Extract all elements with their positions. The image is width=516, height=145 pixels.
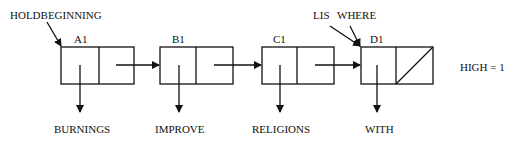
- node-label-c1: C1: [273, 33, 286, 45]
- arrow-holdbeginning: [47, 22, 61, 46]
- value-improve: IMPROVE: [155, 123, 205, 135]
- null-pointer-slash: [396, 47, 433, 84]
- value-burnings: BURNINGS: [54, 123, 110, 135]
- annotation-high: HIGH = 1: [460, 61, 505, 73]
- value-with: WITH: [365, 123, 394, 135]
- pointer-label-holdbeginning: HOLDBEGINNING: [10, 9, 102, 21]
- pointer-label-where: WHERE: [337, 9, 376, 21]
- node-label-a1: A1: [74, 33, 87, 45]
- node-d1-box: [361, 47, 433, 84]
- node-label-b1: B1: [172, 33, 185, 45]
- node-label-d1: D1: [370, 33, 383, 45]
- value-religions: RELIGIONS: [252, 123, 310, 135]
- pointer-label-lis: LIS: [313, 9, 330, 21]
